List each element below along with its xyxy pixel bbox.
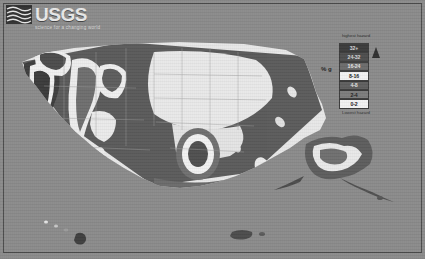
hazard-speckle-1 <box>95 147 105 161</box>
legend-band[interactable]: 32+ <box>339 43 369 52</box>
hazard-speckle-3 <box>106 166 114 178</box>
legend-band[interactable]: 0-2 <box>339 99 369 108</box>
legend-band[interactable]: 2-4 <box>339 90 369 99</box>
legend-band[interactable]: 16-24 <box>339 62 369 71</box>
hazard-speckle-2 <box>86 163 94 173</box>
puerto-rico-inset <box>230 230 265 240</box>
hazard-speckle-4 <box>73 153 79 163</box>
hawaii-inset <box>44 220 86 244</box>
legend-band[interactable]: 8-16 <box>339 71 369 80</box>
screenshot-root: USGS science for a changing world <box>0 0 425 259</box>
newmadrid-core <box>188 141 208 167</box>
legend-top-label: highest hazard <box>330 33 382 38</box>
legend-band[interactable]: 4-8 <box>339 81 369 90</box>
up-arrow-icon <box>372 47 380 58</box>
hazard-legend: 32+ 24-32 16-24 8-16 4-8 2-4 0-2 <box>339 43 369 109</box>
hazard-zone-high-san-andreas <box>34 71 50 144</box>
agency-name: USGS <box>35 5 100 24</box>
legend-bottom-label: Lowest hazard <box>330 110 382 115</box>
usgs-wave-mark-icon <box>6 5 32 24</box>
legend-axis-label: % g <box>321 66 332 72</box>
legend-band[interactable]: 24-32 <box>339 52 369 61</box>
